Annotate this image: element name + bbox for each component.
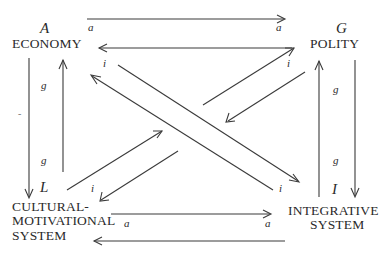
stray-mark: - [18,109,21,119]
cell-i-name-line2: SYSTEM [310,218,364,232]
label-diag-g-i: i [287,58,290,69]
label-left-lower-g: g [41,155,47,166]
arrow-i-to-a [91,75,273,190]
label-top-left-a: a [88,22,94,33]
cell-l-letter: L [40,180,48,195]
cell-g-name: POLITY [310,37,359,51]
cell-a-letter: A [40,21,49,36]
arrow-i-to-g [315,61,323,197]
arrow-l-to-a [59,60,67,172]
label-top-right-a: a [276,22,282,33]
label-left-upper-g: g [41,80,47,91]
cell-i-name-line1: INTEGRATIVE [288,204,379,218]
arrow-i-to-l [94,237,285,245]
arrow-g-to-a [99,44,292,52]
cell-g-letter: G [336,21,347,36]
label-right-lower-g: g [333,155,339,166]
cell-a-name: ECONOMY [12,37,82,51]
label-right-upper-g: g [333,84,339,95]
label-diag-i-i: i [279,183,282,194]
label-diag-l-i: i [91,183,94,194]
arrow-a-to-i [118,65,299,182]
cell-i-letter: I [332,182,337,197]
cell-l-name-line2: MOTIVATIONAL [12,214,115,228]
label-bottom-right-a: a [265,218,271,229]
arrow-a-to-g [87,15,285,23]
label-diag-a-i: i [103,58,106,69]
arrow-a-to-l [25,58,33,198]
arrow-l-to-g [67,48,294,190]
label-bottom-left-a: a [124,218,130,229]
arrow-g-to-l [100,72,305,201]
arrow-l-to-i [111,210,271,218]
arrow-g-to-i [351,60,359,197]
cell-l-name-line1: CULTURAL- [12,200,89,214]
cell-l-name-line3: SYSTEM [12,229,66,243]
agil-diagram: A ECONOMY G POLITY L CULTURAL- MOTIVATIO… [0,0,392,255]
